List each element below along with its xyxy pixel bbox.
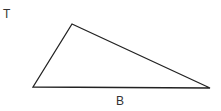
triangle-diagram: T B — [0, 0, 221, 111]
triangle-shape — [0, 0, 221, 111]
label-t: T — [3, 8, 10, 20]
label-b: B — [116, 95, 124, 107]
